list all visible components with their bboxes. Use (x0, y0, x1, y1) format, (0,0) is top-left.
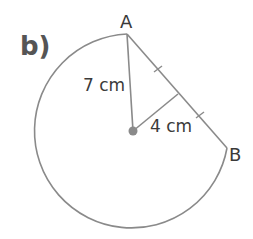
point-b-label: B (229, 144, 241, 165)
perpendicular-measurement: 4 cm (150, 116, 192, 136)
point-a-label: A (120, 11, 133, 32)
circle-segment-diagram: b) A B 7 cm 4 cm (0, 0, 253, 239)
center-point (129, 127, 138, 136)
part-label: b) (20, 31, 51, 61)
radius-line (127, 34, 133, 131)
radius-measurement: 7 cm (83, 75, 125, 95)
